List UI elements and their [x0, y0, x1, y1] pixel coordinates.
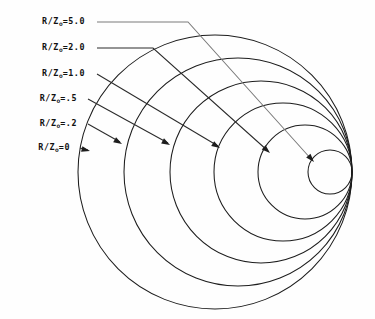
resistance-label: R/Zo=.5: [15, 94, 77, 104]
resistance-circle: [124, 58, 352, 286]
label-value: =.2: [60, 118, 77, 128]
figure-canvas: R/Zo=5.0R/Zo=2.0R/Zo=1.0R/Zo=.5R/Zo=.2R/…: [0, 0, 375, 319]
label-prefix: R/Z: [42, 16, 59, 26]
resistance-label: R/Zo=0: [8, 143, 70, 153]
resistance-circle: [258, 125, 352, 219]
label-prefix: R/Z: [38, 142, 55, 152]
resistance-circle: [308, 150, 352, 194]
resistance-circle: [78, 35, 352, 309]
resistance-label: R/Zo=5.0: [23, 17, 85, 27]
label-value: =.5: [60, 93, 77, 103]
arrow-head-icon: [113, 137, 122, 144]
resistance-circle: [214, 103, 352, 241]
resistance-circle: [170, 81, 352, 263]
arrow-head-icon: [81, 146, 90, 152]
label-prefix: R/Z: [40, 93, 57, 103]
label-value: =5.0: [63, 16, 85, 26]
resistance-label: R/Zo=.2: [15, 119, 77, 129]
leader-line: [88, 99, 168, 143]
leader-lines-group: [80, 22, 314, 162]
leader-line: [97, 48, 268, 151]
resistance-circles-group: [78, 35, 352, 309]
label-value: =1.0: [63, 68, 85, 78]
label-prefix: R/Z: [40, 118, 57, 128]
resistance-label: R/Zo=2.0: [23, 43, 85, 53]
arrow-head-icon: [161, 138, 170, 145]
label-prefix: R/Z: [42, 68, 59, 78]
label-prefix: R/Z: [42, 42, 59, 52]
resistance-label: R/Zo=1.0: [23, 69, 85, 79]
label-value: =2.0: [63, 42, 85, 52]
leader-line: [97, 74, 218, 146]
label-value: =0: [59, 142, 70, 152]
